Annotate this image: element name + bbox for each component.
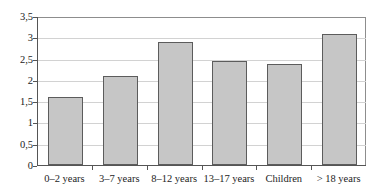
x-axis-tick-label: 8–12 years — [151, 172, 197, 186]
x-axis-tick-label: 13–17 years — [203, 172, 254, 186]
bar-chart: 00,511,522,533,5 0–2 years3–7 years8–12 … — [0, 0, 381, 193]
gridline — [38, 81, 366, 82]
x-axis-tick-label: Children — [265, 172, 302, 186]
y-axis-tick-label: 1 — [0, 118, 33, 129]
x-axis-tick — [147, 166, 148, 170]
y-axis-tick-label: 0,5 — [0, 139, 33, 150]
bar — [212, 61, 247, 165]
bar — [103, 76, 138, 165]
y-axis-tick-label: 2 — [0, 76, 33, 87]
y-axis-tick — [33, 81, 37, 82]
y-axis-labels: 00,511,522,533,5 — [0, 0, 33, 193]
bar — [158, 42, 193, 165]
x-axis-tick — [202, 166, 203, 170]
y-axis-tick — [33, 38, 37, 39]
y-axis-tick-label: 0 — [0, 161, 33, 172]
x-axis-tick — [311, 166, 312, 170]
bar — [48, 97, 83, 165]
x-axis-tick — [92, 166, 93, 170]
plot-area — [37, 17, 366, 166]
x-axis-tick-label: > 18 years — [317, 172, 361, 186]
gridline — [38, 102, 366, 103]
y-axis-tick-label: 3,5 — [0, 12, 33, 23]
bar — [267, 64, 302, 165]
y-axis-tick — [33, 145, 37, 146]
y-axis-tick — [33, 123, 37, 124]
y-axis-tick-label: 1,5 — [0, 97, 33, 108]
gridline — [38, 38, 366, 39]
y-axis-tick-label: 2,5 — [0, 54, 33, 65]
y-axis-tick — [33, 102, 37, 103]
x-axis-tick-label: 3–7 years — [99, 172, 140, 186]
x-axis-tick — [256, 166, 257, 170]
x-axis-ticks — [37, 166, 366, 171]
gridline — [38, 123, 366, 124]
plot-frame-top — [38, 17, 366, 18]
gridline — [38, 60, 366, 61]
y-axis-tick — [33, 17, 37, 18]
x-axis-labels: 0–2 years3–7 years8–12 years13–17 yearsC… — [37, 172, 366, 188]
gridline — [38, 145, 366, 146]
y-axis-tick-label: 3 — [0, 33, 33, 44]
x-axis-tick-label: 0–2 years — [44, 172, 85, 186]
y-axis-tick — [33, 60, 37, 61]
bar — [322, 34, 357, 165]
